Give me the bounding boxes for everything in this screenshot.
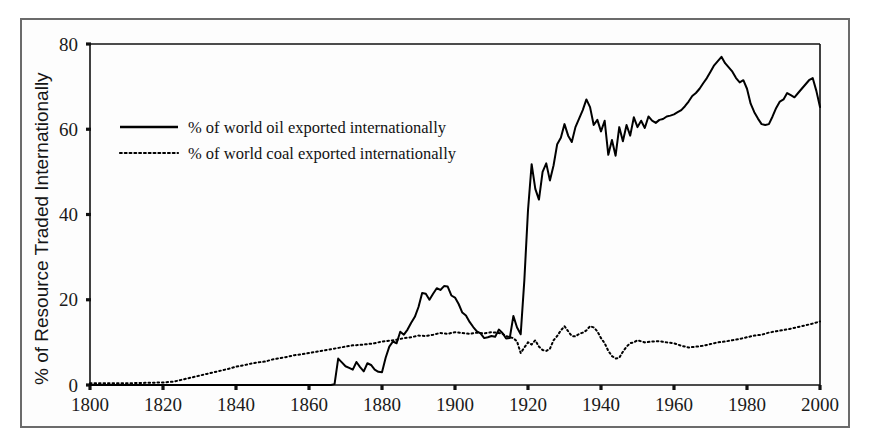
x-tick-label: 1940: [582, 394, 620, 415]
y-tick-label: 40: [59, 204, 78, 225]
x-tick-label: 1860: [290, 394, 328, 415]
series-line-oil: [90, 57, 820, 385]
figure-container: % of Resource Traded Internationally 020…: [0, 0, 872, 448]
x-tick-label: 1980: [728, 394, 766, 415]
axis-ticks-layer: 0204060801800182018401860188019001920194…: [59, 34, 839, 416]
x-tick-label: 1840: [217, 394, 255, 415]
x-tick-label: 1820: [144, 394, 182, 415]
y-tick-label: 60: [59, 119, 78, 140]
legend-label-coal: % of world coal exported internationally: [188, 144, 457, 163]
y-tick-label: 80: [59, 34, 78, 55]
axis-lines-layer: [90, 44, 820, 385]
x-tick-label: 2000: [801, 394, 839, 415]
x-tick-label: 1920: [509, 394, 547, 415]
chart-legend: % of world oil exported internationally%…: [120, 118, 457, 163]
x-tick-label: 1880: [363, 394, 401, 415]
data-series-layer: [90, 57, 820, 385]
x-tick-label: 1800: [71, 394, 109, 415]
x-tick-label: 1900: [436, 394, 474, 415]
y-axis-title: % of Resource Traded Internationally: [31, 72, 52, 385]
y-tick-label: 0: [69, 375, 79, 396]
chart-canvas: % of Resource Traded Internationally 020…: [0, 0, 872, 448]
x-tick-label: 1960: [655, 394, 693, 415]
y-tick-label: 20: [59, 289, 78, 310]
series-line-coal: [90, 321, 820, 383]
legend-label-oil: % of world oil exported internationally: [188, 118, 447, 137]
y-axis-title-group: % of Resource Traded Internationally: [31, 72, 52, 385]
